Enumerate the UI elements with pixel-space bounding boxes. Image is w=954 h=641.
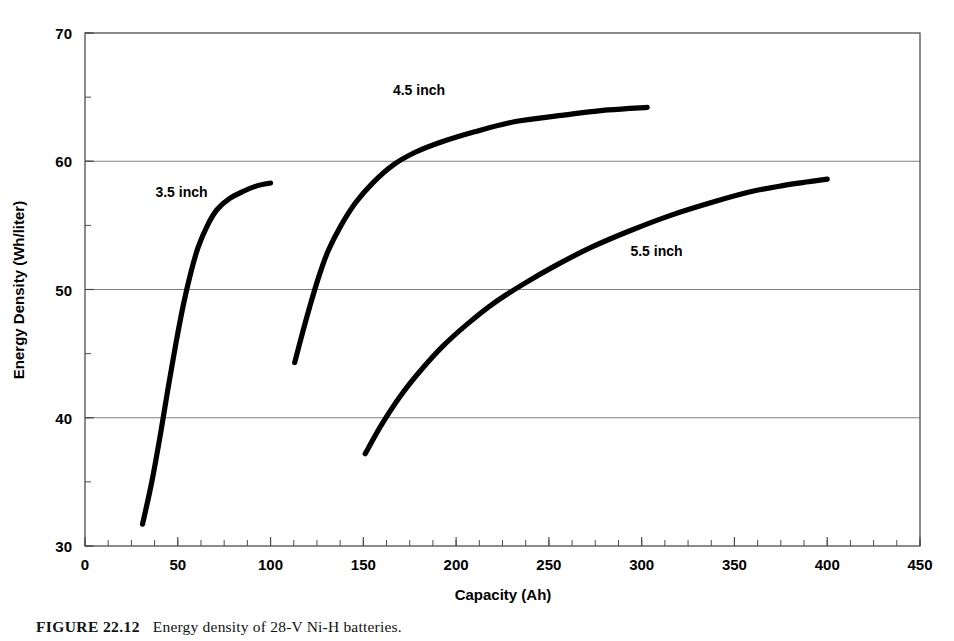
series-curve-3-5-inch [143,183,271,524]
series-curve-5-5-inch [365,179,827,453]
x-tick-label: 250 [536,556,561,573]
series-curves [143,107,828,524]
y-tick-label: 50 [55,282,72,299]
energy-density-chart: 050100150200250300350400450 3040506070 3… [0,0,954,641]
x-tick-label: 50 [169,556,186,573]
x-tick-label: 200 [444,556,469,573]
x-tick-label: 400 [815,556,840,573]
y-tick-label: 60 [55,153,72,170]
x-tick-label: 450 [907,556,932,573]
x-axis-tick-labels: 050100150200250300350400450 [81,556,933,573]
series-label-3-5-inch: 3.5 inch [155,184,207,200]
x-tick-label: 350 [722,556,747,573]
x-tick-label: 300 [629,556,654,573]
x-axis-title: Capacity (Ah) [455,586,552,603]
x-tick-label: 100 [258,556,283,573]
y-axis-tick-labels: 3040506070 [55,25,72,555]
x-tick-label: 0 [81,556,89,573]
figure-container: 050100150200250300350400450 3040506070 3… [0,0,954,641]
x-tick-label: 150 [351,556,376,573]
y-tick-label: 70 [55,25,72,42]
series-label-5-5-inch: 5.5 inch [630,243,682,259]
y-tick-label: 40 [55,410,72,427]
y-axis-title: Energy Density (Wh/liter) [10,201,27,379]
figure-caption: FIGURE 22.12Energy density of 28-V Ni-H … [36,618,936,636]
grid-lines [85,161,920,418]
figure-caption-number: FIGURE 22.12 [36,618,140,635]
y-tick-label: 30 [55,538,72,555]
figure-caption-text: Energy density of 28-V Ni-H batteries. [153,618,402,635]
series-label-4-5-inch: 4.5 inch [393,82,445,98]
